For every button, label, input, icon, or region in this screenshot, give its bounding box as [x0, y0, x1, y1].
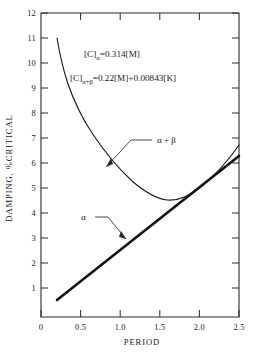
y-tick-label-10: 10 — [27, 59, 36, 68]
x-axis-title: PERIOD — [124, 337, 160, 347]
equation-alpha: [C]α=0.314[M] — [84, 49, 140, 61]
svg-text:[C]α+β=0.22[M]+0.00843[K]: [C]α+β=0.22[M]+0.00843[K] — [70, 73, 176, 85]
eq2-rest: =0.22[M]+0.00843[K] — [93, 73, 176, 83]
y-tick-label-2: 2 — [32, 259, 36, 268]
y-tick-label-3: 3 — [32, 234, 36, 243]
y-axis-title: DAMPING, %CRITICAL — [4, 114, 14, 221]
x-tick-label-2-0: 2.0 — [194, 323, 205, 332]
damping-period-chart: 12 11 10 9 8 7 6 5 4 3 2 1 0 0.5 1.0 1.5… — [0, 0, 256, 358]
plot-frame — [41, 13, 239, 317]
y-axis-ticks — [41, 13, 239, 288]
y-tick-label-9: 9 — [32, 84, 36, 93]
figure-container: 12 11 10 9 8 7 6 5 4 3 2 1 0 0.5 1.0 1.5… — [0, 0, 256, 358]
eq1-rest: =0.314[M] — [100, 49, 140, 59]
y-tick-label-5: 5 — [32, 184, 36, 193]
x-tick-label-1-0: 1.0 — [115, 323, 126, 332]
x-tick-label-0: 0 — [39, 323, 43, 332]
eq1-lead: [C] — [84, 49, 96, 59]
y-tick-label-7: 7 — [32, 134, 36, 143]
y-tick-label-4: 4 — [32, 209, 37, 218]
x-tick-label-2-5: 2.5 — [233, 323, 244, 332]
y-tick-label-6: 6 — [32, 159, 36, 168]
line-alpha — [57, 156, 239, 300]
x-tick-label-1-5: 1.5 — [154, 323, 165, 332]
y-tick-label-8: 8 — [32, 109, 36, 118]
eq2-lead: [C] — [70, 73, 82, 83]
equation-alpha-beta: [C]α+β=0.22[M]+0.00843[K] — [70, 73, 176, 85]
label-alpha: α — [81, 212, 86, 222]
label-alpha-plus-beta: α + β — [157, 135, 176, 145]
y-tick-label-11: 11 — [28, 34, 36, 43]
leader-alpha-plus-beta — [106, 140, 152, 167]
y-tick-label-12: 12 — [27, 9, 36, 18]
curve-alpha-plus-beta — [57, 38, 239, 200]
x-tick-label-0-5: 0.5 — [75, 323, 86, 332]
eq2-sub: α+β — [82, 78, 93, 85]
x-axis-ticks — [41, 13, 239, 317]
y-tick-label-1: 1 — [32, 284, 36, 293]
svg-text:[C]α=0.314[M]: [C]α=0.314[M] — [84, 49, 140, 61]
